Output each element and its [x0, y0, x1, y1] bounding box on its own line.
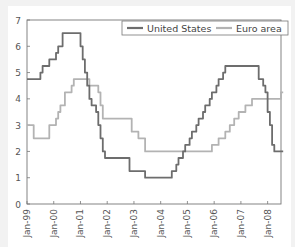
axes: 01234567Jan-99Jan-00Jan-01Jan-02Jan-03Ja… [15, 16, 281, 239]
y-tick-label: 5 [15, 68, 21, 78]
y-tick-label: 7 [15, 16, 21, 26]
x-tick-label: Jan-99 [22, 209, 32, 239]
y-tick-label: 0 [15, 200, 21, 210]
x-tick-label: Jan-00 [49, 209, 59, 239]
x-tick-label: Jan-04 [156, 209, 166, 239]
x-tick-label: Jan-05 [182, 209, 192, 239]
legend: United States Euro area [122, 21, 288, 35]
y-tick-label: 2 [15, 147, 21, 157]
series-lines [27, 33, 283, 178]
x-tick-label: Jan-08 [263, 209, 273, 239]
line-chart: 01234567Jan-99Jan-00Jan-01Jan-02Jan-03Ja… [0, 0, 295, 247]
y-tick-label: 6 [15, 42, 21, 52]
x-tick-label: Jan-03 [129, 209, 139, 239]
y-tick-label: 1 [15, 173, 21, 183]
legend-label-euro: Euro area [236, 23, 282, 34]
x-tick-label: Jan-01 [75, 209, 85, 239]
series-line-euro-area [27, 79, 283, 151]
x-tick-label: Jan-06 [209, 209, 219, 239]
legend-label-us: United States [147, 23, 211, 34]
x-tick-label: Jan-02 [102, 209, 112, 239]
y-tick-label: 4 [15, 94, 21, 104]
y-tick-label: 3 [15, 121, 21, 131]
x-tick-label: Jan-07 [236, 209, 246, 239]
